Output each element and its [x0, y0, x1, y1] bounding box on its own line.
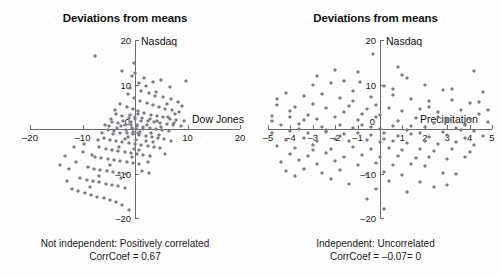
scatter-point	[158, 146, 162, 150]
scatter-point	[97, 180, 101, 184]
scatter-point	[139, 143, 143, 147]
scatter-point	[101, 196, 105, 200]
scatter-point	[369, 147, 373, 151]
scatter-point	[378, 127, 382, 131]
scatter-point	[138, 99, 142, 103]
scatter-point	[427, 99, 431, 103]
scatter-point	[80, 150, 84, 154]
scatter-point	[297, 158, 301, 162]
scatter-point	[130, 74, 134, 78]
scatter-point	[355, 118, 359, 122]
scatter-point	[454, 172, 458, 176]
scatter-point	[414, 156, 418, 160]
scatter-point	[454, 140, 458, 144]
y-tick-label: –20	[109, 213, 131, 224]
scatter-point	[320, 170, 324, 174]
scatter-point	[378, 140, 382, 144]
scatter-point	[164, 102, 168, 106]
scatter-point	[154, 89, 158, 93]
scatter-point	[179, 124, 183, 128]
scatter-point	[355, 162, 359, 166]
scatter-point	[472, 69, 476, 73]
scatter-point	[360, 123, 364, 127]
scatter-point	[338, 168, 342, 172]
y-tick-label: –20	[354, 213, 376, 224]
y-tick-label: 20	[354, 35, 376, 46]
scatter-point	[89, 193, 93, 197]
scatter-point	[119, 124, 123, 128]
scatter-point	[418, 180, 422, 184]
scatter-point	[450, 98, 454, 102]
scatter-point	[342, 132, 346, 136]
scatter-point	[108, 198, 112, 202]
scatter-point	[275, 97, 279, 101]
scatter-point	[67, 167, 71, 171]
scatter-point	[371, 52, 375, 56]
scatter-point	[88, 185, 92, 189]
scatter-point	[347, 182, 351, 186]
scatter-point	[117, 145, 121, 149]
scatter-point	[161, 115, 165, 119]
scatter-point	[427, 105, 431, 109]
scatter-point	[418, 146, 422, 150]
scatter-point	[78, 176, 82, 180]
scatter-point	[355, 130, 359, 134]
chart-panel-left: Deviations from means –20–1001020–20–101…	[0, 0, 250, 278]
scatter-point	[177, 110, 181, 114]
scatter-point	[324, 151, 328, 155]
scatter-point	[311, 83, 315, 87]
scatter-point	[409, 162, 413, 166]
scatter-point	[99, 156, 103, 160]
x-tick-label: –10	[75, 132, 91, 143]
scatter-point	[302, 167, 306, 171]
y-tick-mark	[380, 218, 384, 219]
scatter-point	[103, 182, 107, 186]
scatter-point	[364, 171, 368, 175]
scatter-point	[463, 155, 467, 159]
scatter-point	[347, 139, 351, 143]
scatter-point	[288, 115, 292, 119]
scatter-point	[324, 106, 328, 110]
scatter-point	[149, 130, 153, 134]
scatter-point	[176, 100, 180, 104]
scatter-point	[270, 130, 274, 134]
scatter-point	[481, 134, 485, 138]
x-tick-label: –20	[22, 132, 38, 143]
scatter-point	[351, 99, 355, 103]
caption-right-line2: CorrCoef = –0.07= 0	[250, 251, 501, 264]
x-tick-mark	[358, 125, 359, 129]
scatter-point	[74, 160, 78, 164]
scatter-point	[364, 107, 368, 111]
scatter-point	[93, 54, 97, 58]
y-tick-mark	[135, 174, 139, 175]
plot-area-right: –5–4–3–2–1012345–20–101020PrecipitationN…	[250, 0, 501, 240]
scatter-point	[400, 73, 404, 77]
scatter-point	[382, 131, 386, 135]
scatter-point	[154, 127, 158, 131]
scatter-point	[472, 143, 476, 147]
x-axis-label: Dow Jones	[192, 113, 244, 125]
scatter-point	[369, 133, 373, 137]
scatter-point	[391, 87, 395, 91]
scatter-point	[166, 129, 170, 133]
scatter-point	[106, 157, 110, 161]
scatter-point	[92, 166, 96, 170]
scatter-point	[161, 95, 165, 99]
plot-area-left: –20–1001020–20–101020Dow JonesNasdaq	[0, 0, 250, 240]
scatter-point	[382, 170, 386, 174]
scatter-point	[86, 165, 90, 169]
scatter-point	[275, 144, 279, 148]
scatter-point	[481, 89, 485, 93]
scatter-point	[445, 183, 449, 187]
scatter-point	[396, 154, 400, 158]
scatter-point	[436, 142, 440, 146]
scatter-point	[145, 144, 149, 148]
x-tick-mark	[335, 125, 336, 129]
scatter-point	[141, 153, 145, 157]
caption-right-line1: Independent: Uncorrelated	[250, 238, 501, 251]
scatter-point	[391, 124, 395, 128]
scatter-point	[364, 138, 368, 142]
scatter-point	[123, 171, 127, 175]
scatter-point	[110, 148, 114, 152]
scatter-point	[297, 127, 301, 131]
